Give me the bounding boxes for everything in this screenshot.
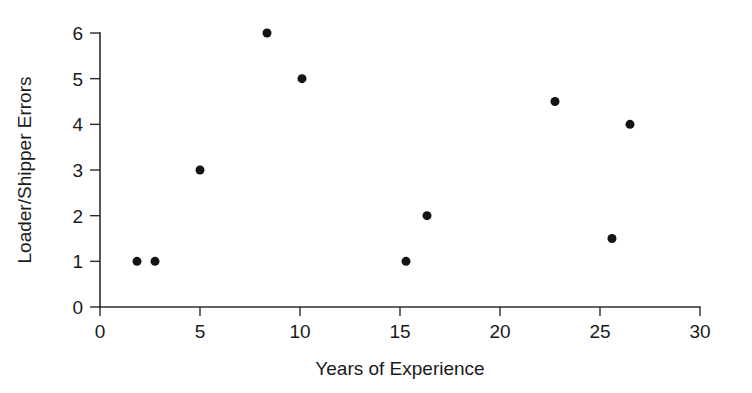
y-axis-title: Loader/Shipper Errors: [14, 77, 35, 264]
data-points-group: [133, 29, 635, 266]
data-point: [196, 166, 205, 175]
data-point: [263, 29, 272, 38]
y-tick-label-5: 5: [72, 69, 83, 90]
y-tick-label-4: 4: [72, 114, 83, 135]
x-tick-label-15: 15: [389, 321, 410, 342]
data-point: [133, 257, 142, 266]
y-tick-label-3: 3: [72, 160, 83, 181]
data-point: [608, 234, 617, 243]
y-tick-label-2: 2: [72, 206, 83, 227]
axes-group: [100, 33, 701, 308]
data-point: [151, 257, 160, 266]
data-point: [626, 120, 635, 129]
y-tick-label-6: 6: [72, 23, 83, 44]
y-tick-label-1: 1: [72, 251, 83, 272]
x-tick-label-20: 20: [489, 321, 510, 342]
x-tick-label-10: 10: [289, 321, 310, 342]
data-point: [298, 74, 307, 83]
x-tick-label-0: 0: [95, 321, 106, 342]
x-axis-title: Years of Experience: [315, 358, 484, 379]
y-axis-ticks: 0123456: [72, 23, 100, 318]
data-point: [402, 257, 411, 266]
x-axis-ticks: 051015202530: [95, 307, 711, 342]
y-tick-label-0: 0: [72, 297, 83, 318]
data-point: [423, 211, 432, 220]
data-point: [551, 97, 560, 106]
x-tick-label-25: 25: [589, 321, 610, 342]
x-tick-label-5: 5: [195, 321, 206, 342]
plot-canvas: 051015202530 0123456 Years of Experience…: [0, 0, 752, 393]
scatter-plot-figure: 051015202530 0123456 Years of Experience…: [0, 0, 752, 393]
x-tick-label-30: 30: [689, 321, 710, 342]
